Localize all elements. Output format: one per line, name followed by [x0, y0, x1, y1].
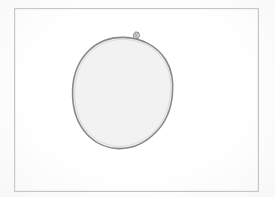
drawn-circle-svg — [71, 36, 174, 150]
rim-knot-icon — [132, 31, 141, 40]
scene-root: Scanned card with hand-drawn circle Card… — [0, 0, 275, 197]
card-frame-shadow-bottom — [14, 190, 259, 192]
drawn-circle — [71, 36, 174, 150]
rim-knot-svg — [132, 31, 141, 40]
card-frame-shadow-right — [257, 8, 259, 192]
card-frame-shadow-top — [14, 8, 259, 10]
card-frame-shadow-left — [14, 8, 16, 192]
